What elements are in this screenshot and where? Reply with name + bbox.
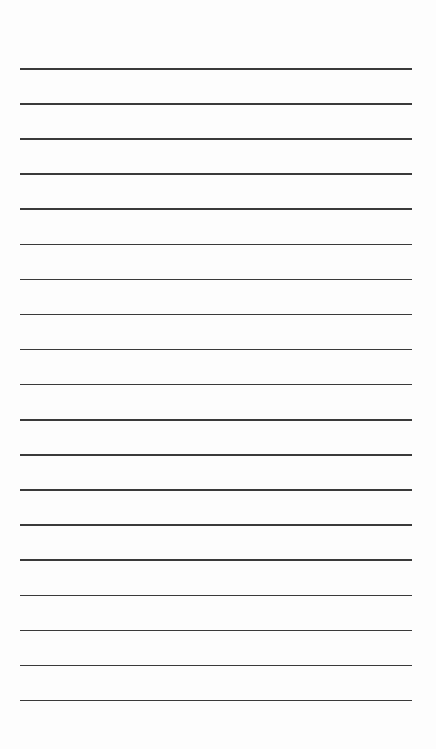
ruled-line [20,524,412,526]
lined-page [0,0,436,749]
ruled-line [20,68,412,70]
ruled-line [20,138,412,140]
ruled-line [20,384,412,386]
ruled-line [20,454,412,456]
ruled-line [20,279,412,281]
ruled-line [20,630,412,632]
ruled-line [20,419,412,421]
ruled-line [20,208,412,210]
ruled-line [20,103,412,105]
ruled-line [20,244,412,246]
ruled-line [20,173,412,175]
ruled-line [20,489,412,491]
ruled-line [20,700,412,702]
ruled-line [20,595,412,597]
ruled-line [20,559,412,561]
ruled-line [20,349,412,351]
ruled-line [20,665,412,667]
ruled-line [20,314,412,316]
